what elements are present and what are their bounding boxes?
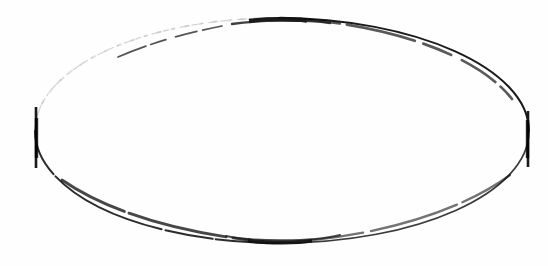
ellipse-figure-svg <box>0 0 548 266</box>
figure-canvas <box>0 0 548 266</box>
figure-background <box>0 0 548 266</box>
